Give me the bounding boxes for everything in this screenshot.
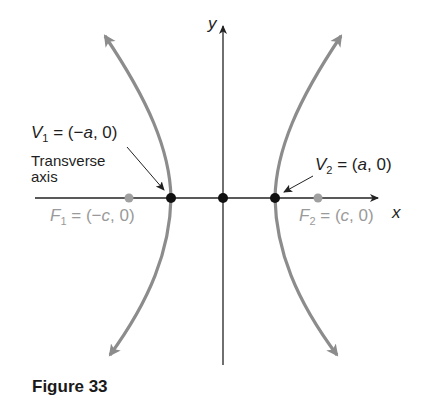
- v2-label: V2 = (a, 0): [315, 156, 392, 173]
- f2-label: F2 = (c, 0): [299, 207, 374, 224]
- f1-label: F1 = (−c, 0): [50, 207, 135, 224]
- focus-f2-point: [314, 194, 323, 203]
- v1-label: V1 = (−a, 0): [31, 124, 117, 141]
- hyperbola-left-branch-upper: [105, 36, 171, 198]
- x-axis-label: x: [392, 203, 401, 223]
- vertex-v1-point: [166, 193, 176, 203]
- v1-pointer-arrow: [127, 147, 164, 190]
- vertex-v2-point: [270, 193, 280, 203]
- v2-pointer-arrow: [284, 176, 313, 192]
- focus-f1-point: [125, 194, 134, 203]
- figure-caption: Figure 33: [32, 377, 108, 397]
- hyperbola-diagram: [0, 0, 431, 406]
- y-axis-label: y: [208, 14, 217, 34]
- center-point: [218, 193, 228, 203]
- transverse-axis-label: Transverse axis: [31, 153, 105, 185]
